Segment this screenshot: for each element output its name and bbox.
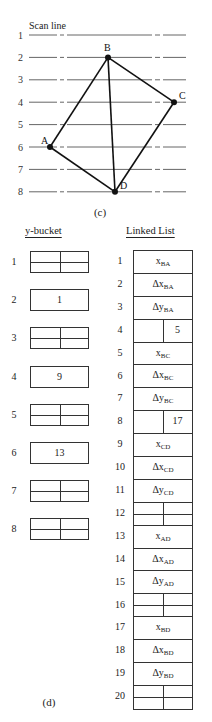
linked-list-row: ΔxBA <box>134 274 192 297</box>
linked-list-index: 18 <box>112 644 128 655</box>
scan-line-number: 1 <box>18 30 23 41</box>
scan-line-number: 7 <box>18 164 23 175</box>
linked-list-index: 11 <box>112 484 128 495</box>
linked-list-index: 2 <box>112 278 128 289</box>
linked-list-row: xBD <box>134 617 192 640</box>
linked-list-pointer: 17 <box>163 415 192 426</box>
linked-list-index: 15 <box>112 576 128 587</box>
linked-list-value: xBD <box>134 621 192 634</box>
linked-list-index: 5 <box>112 347 128 358</box>
linked-list-value: ΔyBC <box>134 392 192 405</box>
y-bucket-heading: y-bucket <box>25 225 62 236</box>
linked-list-index: 1 <box>112 255 128 266</box>
scan-line-label: Scan line <box>29 20 66 31</box>
linked-list-value: ΔxAD <box>134 553 192 566</box>
linked-list-index: 13 <box>112 530 128 541</box>
linked-list-index: 14 <box>112 553 128 564</box>
linked-list-pointer: 5 <box>163 324 192 335</box>
linked-list-row: xAD <box>134 526 192 549</box>
bucket-pointer-value: 13 <box>31 447 88 458</box>
linked-list-value: ΔxBC <box>134 369 192 382</box>
linked-list-value: ΔxCD <box>134 461 192 474</box>
linked-list-value: ΔyAD <box>134 575 192 588</box>
scan-line-number: 8 <box>18 186 23 197</box>
vertex-label: D <box>120 180 127 191</box>
bucket-cell <box>30 327 89 349</box>
bucket-index: 8 <box>8 523 20 534</box>
linked-list-index: 19 <box>112 667 128 678</box>
vertex-label: C <box>179 90 186 101</box>
bucket-index: 3 <box>8 332 20 343</box>
bucket-cell <box>30 251 89 273</box>
bucket-pointer-value: 9 <box>31 371 88 382</box>
linked-list-row: ΔyBA <box>134 297 192 320</box>
linked-list-index: 20 <box>112 690 128 701</box>
linked-list-value: ΔyCD <box>134 484 192 497</box>
linked-list-row: 5 <box>134 320 192 343</box>
vertex-label: A <box>41 135 49 146</box>
linked-list-index: 4 <box>112 324 128 335</box>
figure-d-caption: (d) <box>29 696 69 708</box>
linked-list-index: 9 <box>112 438 128 449</box>
linked-list-row <box>134 594 192 617</box>
linked-list-row <box>134 503 192 526</box>
linked-list-row: ΔxBC <box>134 365 192 388</box>
bucket-cell: 13 <box>30 442 89 464</box>
linked-list-row: xBA <box>134 251 192 274</box>
vertex-c <box>171 99 177 105</box>
bucket-index: 1 <box>8 256 20 267</box>
linked-list-index: 3 <box>112 301 128 312</box>
figure-c-caption: (c) <box>80 206 120 218</box>
linked-list-row: ΔyCD <box>134 480 192 503</box>
bucket-index: 4 <box>8 371 20 382</box>
linked-list-value: ΔyBA <box>134 301 192 314</box>
linked-list-row: ΔxAD <box>134 549 192 572</box>
scan-line-diagram: 12345678 ABCD <box>0 0 212 222</box>
linked-list-index: 10 <box>112 461 128 472</box>
linked-list-index: 17 <box>112 621 128 632</box>
linked-list-row: ΔyBC <box>134 388 192 411</box>
bucket-index: 6 <box>8 447 20 458</box>
linked-list-value: xBC <box>134 347 192 360</box>
linked-list-table: xBAΔxBAΔyBA5xBCΔxBCΔyBC17xCDΔxCDΔyCDxADΔ… <box>133 250 193 710</box>
scan-line-number: 2 <box>18 52 23 63</box>
linked-list-value: ΔxBD <box>134 644 192 657</box>
bucket-cell <box>30 480 89 502</box>
scan-line-number: 4 <box>18 97 23 108</box>
linked-list-index: 7 <box>112 392 128 403</box>
vertex-d <box>112 189 118 195</box>
bucket-index: 2 <box>8 294 20 305</box>
linked-list-index: 16 <box>112 599 128 610</box>
bucket-cell <box>30 404 89 426</box>
linked-list-index: 12 <box>112 507 128 518</box>
linked-list-row: xCD <box>134 434 192 457</box>
linked-list-value: xBA <box>134 255 192 268</box>
linked-list-index: 6 <box>112 370 128 381</box>
bucket-pointer-value: 1 <box>31 294 88 305</box>
scan-lines: 12345678 <box>18 30 186 198</box>
linked-list-row: ΔyBD <box>134 663 192 686</box>
bucket-cell: 9 <box>30 366 89 388</box>
scan-line-number: 3 <box>18 74 23 85</box>
linked-list-value: xAD <box>134 530 192 543</box>
linked-list-row: ΔxCD <box>134 457 192 480</box>
linked-list-row: ΔxBD <box>134 640 192 663</box>
bucket-index: 7 <box>8 485 20 496</box>
scan-line-number: 6 <box>18 142 23 153</box>
bucket-cell: 1 <box>30 289 89 311</box>
scan-line-number: 5 <box>18 119 23 130</box>
linked-list-value: ΔyBD <box>134 667 192 680</box>
vertex-label: B <box>104 42 111 53</box>
vertex-b <box>105 54 111 60</box>
linked-list-value: xCD <box>134 438 192 451</box>
linked-list-heading: Linked List <box>126 225 175 236</box>
bucket-cell <box>30 518 89 540</box>
linked-list-row: 17 <box>134 411 192 434</box>
linked-list-value: ΔxBA <box>134 278 192 291</box>
linked-list-row <box>134 686 192 709</box>
linked-list-row: ΔyAD <box>134 571 192 594</box>
linked-list-row: xBC <box>134 343 192 366</box>
bucket-index: 5 <box>8 409 20 420</box>
linked-list-index: 8 <box>112 415 128 426</box>
